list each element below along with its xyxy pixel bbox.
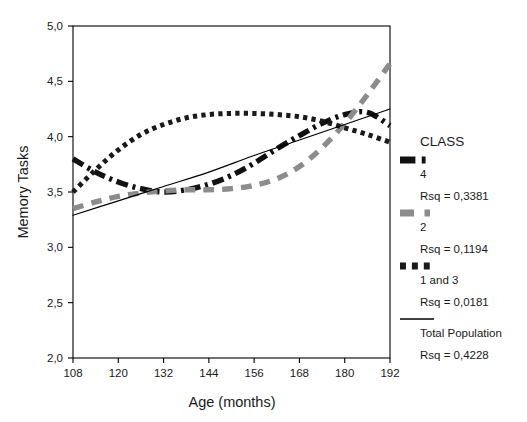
legend-label: Total Population (420, 327, 502, 339)
chart-container: 108120132144156168180192 2,02,53,03,54,0… (0, 0, 527, 422)
x-tick-label: 108 (63, 367, 82, 379)
x-tick-label: 168 (290, 367, 309, 379)
x-tick-label: 180 (335, 367, 354, 379)
x-tick-label: 144 (199, 367, 219, 379)
legend-label: 4 (420, 168, 427, 180)
x-tick-label: 120 (109, 367, 128, 379)
y-tick-label: 2,0 (47, 352, 63, 364)
legend-label: 2 (420, 221, 426, 233)
legend-rsq-label: Rsq = 0,0181 (420, 296, 489, 308)
y-tick-label: 4,5 (47, 75, 63, 87)
x-axis-title: Age (months) (188, 394, 275, 410)
y-axis-title: Memory Tasks (15, 145, 31, 238)
y-tick-label: 3,0 (47, 241, 63, 253)
legend-title: CLASS (420, 134, 464, 149)
memory-tasks-by-age-chart: 108120132144156168180192 2,02,53,03,54,0… (0, 0, 527, 422)
legend-label: 1 and 3 (420, 274, 458, 286)
x-tick-label: 192 (380, 367, 399, 379)
y-tick-label: 4,0 (47, 131, 63, 143)
y-tick-label: 5,0 (47, 20, 63, 32)
y-tick-label: 2,5 (47, 297, 63, 309)
legend-rsq-label: Rsq = 0,1194 (420, 243, 488, 255)
y-tick-label: 3,5 (47, 186, 63, 198)
legend-rsq-label: Rsq = 0,4228 (420, 349, 489, 361)
legend-rsq-label: Rsq = 0,3381 (420, 190, 489, 202)
x-tick-label: 132 (154, 367, 173, 379)
x-tick-label: 156 (245, 367, 264, 379)
